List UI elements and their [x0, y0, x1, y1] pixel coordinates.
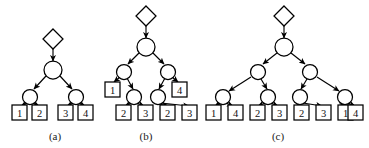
leaf-label-c-leaf-1a: 1: [211, 108, 216, 119]
leaf-label-b-leaf-2a: 2: [121, 108, 126, 119]
leaf-label-a-leaf-4: 4: [83, 108, 89, 119]
circle-node-c-c5: [293, 90, 308, 105]
edge-c-5: [301, 79, 307, 89]
edge-b-1: [128, 53, 139, 64]
circle-node-c-c6: [338, 90, 353, 105]
root-diamond-node-b: [136, 6, 156, 26]
circle-node-b-c3: [127, 90, 142, 105]
leaf-label-b-leaf-3b: 3: [187, 108, 192, 119]
root-diamond-node-c: [274, 6, 294, 26]
circle-node-c-c3: [216, 90, 231, 105]
edge-c-1: [263, 53, 277, 64]
leaf-label-c-leaf-4a: 4: [233, 108, 239, 119]
circle-node-c-c0: [275, 38, 293, 56]
circle-node-b-c4: [151, 90, 166, 105]
circle-node-b-c2: [161, 65, 176, 80]
edge-b-4: [127, 78, 133, 89]
edge-b-2: [153, 53, 164, 64]
circle-node-c-c1: [251, 65, 266, 80]
circle-node-a-c1: [23, 90, 38, 105]
edge-c-6: [317, 77, 339, 91]
leaf-label-c-leaf-2b: 2: [299, 108, 304, 119]
circle-node-a-c2: [69, 90, 84, 105]
edge-c-2: [291, 53, 305, 64]
edge-a-2: [60, 76, 72, 89]
tree-panel-c: 14232314(c): [206, 6, 363, 143]
edge-b-6: [159, 78, 165, 89]
leaf-label-b-leaf-2b: 2: [165, 108, 170, 119]
edge-c-3: [229, 77, 251, 91]
tree-diagram-figure: 1234(a)142323(b)14232314(c): [0, 0, 369, 148]
panel-caption-b: (b): [140, 130, 153, 143]
edge-a-1: [34, 76, 46, 89]
circle-node-b-c1: [117, 65, 132, 80]
leaf-label-c-leaf-1b: 1: [343, 108, 348, 119]
circle-node-c-c2: [303, 65, 318, 80]
tree-panel-b: 142323(b): [105, 6, 197, 143]
edge-c-4: [261, 79, 267, 89]
circle-node-a-c0: [44, 61, 62, 79]
leaf-label-c-leaf-3a: 3: [277, 108, 282, 119]
circle-node-c-c4: [261, 90, 276, 105]
tree-panel-a: 1234(a): [12, 29, 93, 143]
leaf-label-c-leaf-3b: 3: [321, 108, 326, 119]
panel-caption-c: (c): [272, 130, 285, 143]
leaf-label-b-leaf-1: 1: [110, 85, 115, 96]
leaf-label-c-leaf-2a: 2: [255, 108, 260, 119]
leaf-label-a-leaf-2: 2: [37, 108, 42, 119]
leaf-label-b-leaf-3a: 3: [143, 108, 148, 119]
diagram-canvas: 1234(a)142323(b)14232314(c): [0, 0, 369, 148]
leaf-label-b-leaf-4: 4: [177, 85, 183, 96]
root-diamond-node-a: [43, 29, 63, 49]
leaf-label-a-leaf-3: 3: [63, 108, 68, 119]
circle-node-b-c0: [137, 38, 155, 56]
leaf-label-a-leaf-1: 1: [17, 108, 22, 119]
leaf-label-c-leaf-4b: 4: [353, 108, 359, 119]
panel-caption-a: (a): [49, 130, 62, 143]
